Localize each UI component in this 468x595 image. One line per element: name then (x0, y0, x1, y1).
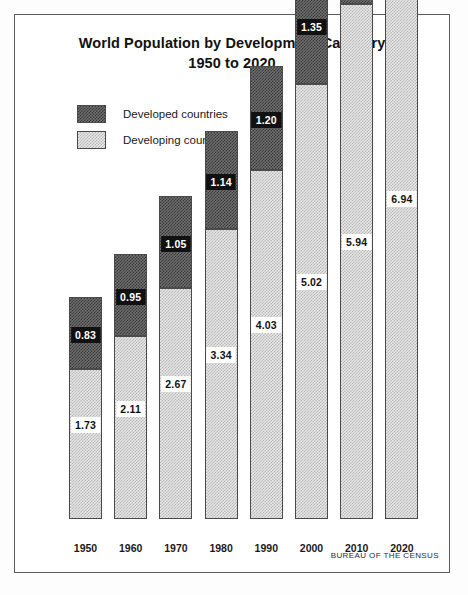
stacked-bar: 1.355.02 (295, 0, 328, 519)
bar-value-label-developing: 2.67 (161, 376, 190, 392)
bar-value-label-developed: 1.14 (206, 174, 235, 190)
source-attribution: BUREAU OF THE CENSUS (331, 551, 439, 560)
bar-segment-developing: 3.34 (205, 229, 238, 519)
stacked-bar: 0.952.11 (114, 254, 147, 519)
stacked-bar: 1.356.94 (385, 0, 418, 519)
bar-segment-developing: 1.73 (69, 369, 102, 519)
bar-segment-developing: 4.03 (250, 170, 283, 519)
bar-segment-developed: 1.05 (159, 196, 192, 287)
bar-segment-developed: 1.20 (250, 66, 283, 170)
x-axis-label-1960: 1960 (114, 542, 147, 554)
bar-segment-developing: 5.02 (295, 84, 328, 519)
stacked-bar: 1.325.94 (340, 0, 373, 519)
x-axis-label-1990: 1990 (250, 542, 283, 554)
stacked-bar: 1.052.67 (159, 196, 192, 519)
bar-segment-developing: 5.94 (340, 4, 373, 519)
stacked-bar: 1.204.03 (250, 66, 283, 519)
x-axis-label-2000: 2000 (295, 542, 328, 554)
stacked-bar: 0.831.73 (69, 297, 102, 519)
bar-segment-developed: 1.14 (205, 131, 238, 230)
bar-value-label-developing: 1.73 (71, 417, 100, 433)
bar-segment-developed: 0.83 (69, 297, 102, 369)
bar-value-label-developing: 5.02 (297, 274, 326, 290)
x-axis-label-1950: 1950 (69, 542, 102, 554)
figure-page: World Population by Development Category… (0, 0, 468, 595)
bar-segment-developing: 6.94 (385, 0, 418, 519)
bar-value-label-developing: 3.34 (206, 347, 235, 363)
bar-segment-developed: 0.95 (114, 254, 147, 336)
bar-segment-developing: 2.67 (159, 288, 192, 519)
stacked-bar: 1.143.34 (205, 131, 238, 519)
bar-value-label-developing: 6.94 (387, 191, 416, 207)
x-axis-label-1970: 1970 (159, 542, 192, 554)
bar-value-label-developed: 1.05 (161, 236, 190, 252)
figure-frame: World Population by Development Category… (14, 14, 450, 573)
bar-value-label-developing: 2.11 (116, 401, 145, 417)
bar-segment-developed: 1.35 (295, 0, 328, 84)
bar-value-label-developing: 5.94 (342, 234, 371, 250)
x-axis-label-1980: 1980 (205, 542, 238, 554)
bar-value-label-developed: 0.95 (116, 289, 145, 305)
bar-value-label-developed: 1.20 (252, 112, 281, 128)
bar-value-label-developed: 0.83 (71, 327, 100, 343)
bar-value-label-developing: 4.03 (252, 317, 281, 333)
bar-value-label-developed: 1.35 (297, 19, 326, 35)
bar-segment-developing: 2.11 (114, 336, 147, 519)
bar-plot-area: 0.831.7319500.952.1119601.052.6719701.14… (15, 15, 451, 574)
